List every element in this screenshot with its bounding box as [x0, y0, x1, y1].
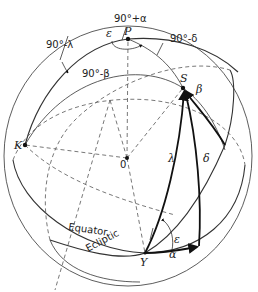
point-k: [23, 143, 27, 147]
axis-o-p: [127, 39, 128, 158]
label-90-minus-delta: 90°-δ: [170, 33, 197, 44]
label-k: K: [13, 139, 23, 152]
axis-o-k: [25, 145, 127, 158]
celestial-sphere-diagram: P K S 0 Υ 90°+α 90°-λ 90°-β 90°-δ ε β λ …: [0, 0, 258, 292]
colure-arc-pk: [25, 38, 238, 145]
line-back-left: [55, 100, 110, 290]
point-vernal: [143, 251, 146, 254]
hour-circle-ps: [128, 39, 183, 88]
label-p: P: [123, 25, 132, 38]
label-90-minus-lambda: 90°-λ: [46, 39, 73, 50]
tick-90-delta: [157, 43, 163, 55]
line-o-s: [127, 88, 183, 158]
label-delta: δ: [203, 152, 210, 165]
lambda-angle-mark: [62, 62, 68, 73]
label-lambda: λ: [167, 152, 175, 165]
label-s: S: [180, 72, 188, 85]
label-90-plus-alpha: 90°+α: [114, 13, 147, 24]
colure-arc-back: [25, 145, 175, 215]
delta-arc: [186, 95, 200, 246]
label-epsilon-top: ε: [106, 27, 112, 40]
label-epsilon-bottom: ε: [174, 233, 180, 246]
line-o-back: [110, 100, 127, 158]
label-vernal: Υ: [140, 256, 149, 269]
label-alpha: α: [169, 248, 177, 261]
label-90-minus-beta: 90°-β: [82, 68, 110, 79]
lambda-arc: [145, 92, 184, 253]
label-o: 0: [120, 159, 126, 170]
epsilon-angle-top: [112, 41, 142, 49]
point-s: [181, 86, 185, 90]
label-beta: β: [195, 83, 202, 96]
